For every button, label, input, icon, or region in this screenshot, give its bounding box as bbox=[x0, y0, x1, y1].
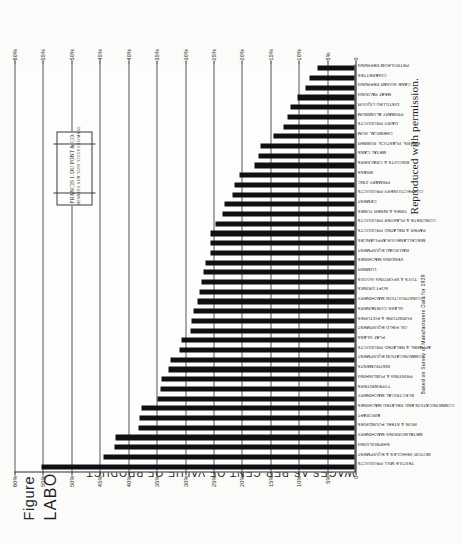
bar bbox=[203, 269, 354, 274]
category-label: CANE SUGAR REFINING bbox=[357, 82, 410, 87]
permission-note: Reproduced with permission. bbox=[407, 77, 419, 214]
axis-tick bbox=[14, 60, 15, 64]
bar bbox=[103, 454, 354, 459]
category-label: METALWORKING MACHINERY bbox=[357, 431, 422, 436]
category-label: PRIMARY ZINC bbox=[357, 179, 389, 184]
y-tick-label: 50% bbox=[68, 49, 74, 60]
bar bbox=[170, 357, 354, 362]
y-tick-label: 40% bbox=[125, 49, 131, 60]
axis-tick bbox=[270, 60, 271, 64]
category-label: COMMUNICATION AND RELATED MACHINES bbox=[357, 402, 454, 407]
chart-plot-area: 005%5%10%10%15%15%20%20%25%25%30%30%35%3… bbox=[14, 64, 355, 472]
bar bbox=[179, 347, 354, 352]
bar bbox=[287, 114, 354, 119]
category-label: PRIMARY ALUMINUM bbox=[357, 111, 403, 116]
publisher-logo: FRANCIS I. DU PONT & CO. MEMBERS NEW YOR… bbox=[56, 131, 92, 205]
axis-tick bbox=[213, 60, 214, 64]
y-tick-label: 15% bbox=[267, 475, 273, 486]
y-tick-label: 60% bbox=[11, 475, 17, 486]
bar bbox=[210, 230, 354, 235]
axis-tick bbox=[241, 60, 242, 64]
axis-tick bbox=[128, 60, 129, 64]
y-tick-label: 25% bbox=[210, 475, 216, 486]
category-label: TEXTILE MILL PRODUCTS bbox=[357, 460, 413, 465]
y-tick-label: 60% bbox=[11, 49, 17, 60]
category-label: TOYS & SPORTING GOODS bbox=[357, 276, 417, 281]
bar bbox=[297, 94, 354, 99]
category-label: MEAT PACKING bbox=[357, 91, 391, 96]
axis-tick bbox=[42, 60, 43, 64]
axis-tick bbox=[241, 471, 242, 475]
bar bbox=[283, 124, 354, 129]
category-label: CHEMICAL GUM bbox=[357, 130, 392, 135]
figure: Figure 21-1 LABOR COSTS WAGES AS PER CEN… bbox=[0, 0, 461, 544]
y-tick-label: 10% bbox=[295, 49, 301, 60]
category-label: LUMBER bbox=[357, 266, 376, 271]
bar bbox=[309, 75, 354, 80]
y-tick-label: 35% bbox=[153, 49, 159, 60]
bar bbox=[201, 279, 354, 284]
category-label: DISTILLED LIQUOR bbox=[357, 101, 399, 106]
bar bbox=[160, 386, 354, 391]
bar bbox=[305, 85, 354, 90]
category-label: CONCRETE & PLASTER PRODUCTS bbox=[357, 218, 435, 223]
rotated-figure-wrapper: Figure 21-1 LABOR COSTS WAGES AS PER CEN… bbox=[0, 0, 461, 544]
category-label: PAPER & RELATED PRODUCTS bbox=[357, 227, 425, 232]
axis-tick bbox=[355, 60, 356, 64]
bar bbox=[222, 211, 354, 216]
bar bbox=[210, 240, 354, 245]
axis-tick bbox=[355, 471, 356, 475]
bar bbox=[181, 337, 354, 342]
bar bbox=[115, 434, 354, 439]
axis-tick bbox=[185, 471, 186, 475]
y-tick-label: 40% bbox=[125, 475, 131, 486]
y-tick-label: 25% bbox=[210, 49, 216, 60]
axis-tick bbox=[213, 471, 214, 475]
category-label: PETROLEUM REFINING bbox=[357, 62, 408, 67]
bar bbox=[254, 162, 354, 167]
source-note: Based on Survey of Manufacturers Data fo… bbox=[419, 274, 425, 394]
bar bbox=[161, 376, 354, 381]
bar bbox=[317, 65, 354, 70]
bar bbox=[141, 405, 354, 410]
bar bbox=[168, 366, 354, 371]
gridline bbox=[355, 64, 356, 471]
category-label: SHIPBUILDING bbox=[357, 441, 389, 446]
bar bbox=[205, 260, 354, 265]
y-tick-label: 55% bbox=[39, 49, 45, 60]
y-tick-label: 20% bbox=[238, 475, 244, 486]
category-label: DAIRY PRODUCTS bbox=[357, 120, 397, 125]
category-label: CONSTRUCTION MACHINERY bbox=[357, 295, 422, 300]
scanned-page: Figure 21-1 LABOR COSTS WAGES AS PER CEN… bbox=[0, 0, 461, 544]
bar bbox=[157, 396, 354, 401]
y-tick-label: 5% bbox=[324, 52, 330, 60]
bar bbox=[224, 201, 354, 206]
bar bbox=[114, 444, 354, 449]
y-tick-label: 55% bbox=[39, 475, 45, 486]
axis-tick bbox=[156, 471, 157, 475]
category-label: FURNITURE & FIXTURES bbox=[357, 315, 411, 320]
category-label: AIRCRAFT bbox=[357, 412, 380, 417]
y-tick-label: 20% bbox=[238, 49, 244, 60]
category-label: COMMUNICATION EQUIPMENT bbox=[357, 354, 424, 359]
bar bbox=[273, 133, 354, 138]
category-label: ELECTRICAL MACHINERY bbox=[357, 392, 413, 397]
y-tick-label: 10% bbox=[295, 475, 301, 486]
category-label: TYPEWRITERS bbox=[357, 383, 390, 388]
category-label: OIL FIELD EQUIPMENT bbox=[357, 324, 407, 329]
bar bbox=[197, 298, 354, 303]
y-tick-label: 15% bbox=[267, 49, 273, 60]
category-label: PRINTING & PUBLISHING bbox=[357, 373, 412, 378]
bar bbox=[191, 318, 354, 323]
bar bbox=[199, 289, 354, 294]
axis-tick bbox=[327, 60, 328, 64]
bar bbox=[260, 143, 354, 148]
category-label: GLASS CONTAINERS bbox=[357, 305, 403, 310]
category-label: TIRES & INNER TUBES bbox=[357, 208, 407, 213]
y-tick-label: 50% bbox=[68, 475, 74, 486]
bar bbox=[193, 308, 354, 313]
bar bbox=[190, 328, 354, 333]
axis-tick bbox=[128, 471, 129, 475]
category-label: VENDING MACHINES bbox=[357, 256, 403, 261]
category-label: CEMENT bbox=[357, 198, 376, 203]
